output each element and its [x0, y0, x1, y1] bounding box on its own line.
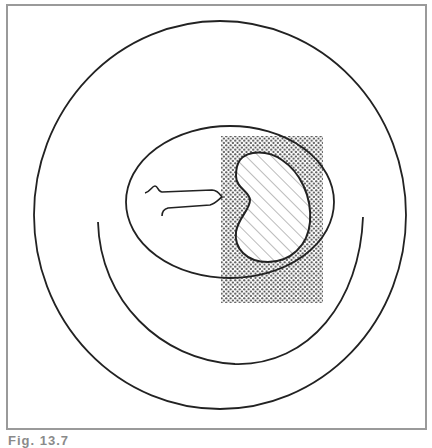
probe	[145, 186, 222, 216]
figure-frame	[7, 5, 426, 429]
figure-caption: Fig. 13.7	[8, 433, 69, 448]
outer-circle	[34, 21, 406, 409]
